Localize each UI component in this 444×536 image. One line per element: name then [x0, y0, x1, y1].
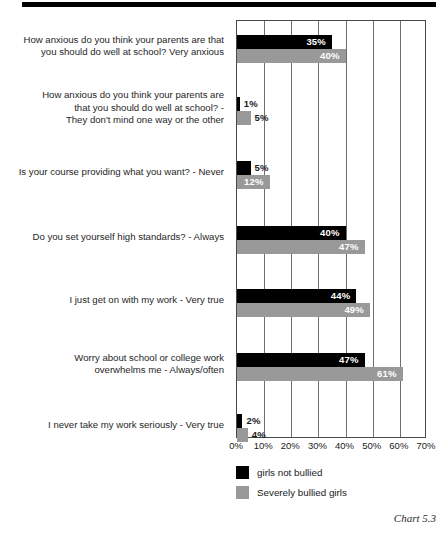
bar-value-label: 40% [320, 226, 340, 240]
legend-item: Severely bullied girls [236, 486, 436, 499]
bar-not-bullied [237, 97, 240, 111]
legend-label: girls not bullied [257, 467, 322, 478]
bar-group: 47%61% [237, 353, 425, 381]
bar-value-label: 1% [244, 97, 258, 111]
bar-group: 5%12% [237, 161, 425, 189]
x-tick-label: 50% [362, 440, 381, 451]
bar-chart: 35%40%1%5%5%12%40%47%44%49%47%61%2%4% [0, 18, 444, 436]
chart-caption: Chart 5.3 [394, 512, 436, 524]
x-tick-label: 70% [416, 440, 435, 451]
bar-value-label: 5% [255, 161, 269, 175]
bar-group: 44%49% [237, 289, 425, 317]
bar-group: 40%47% [237, 226, 425, 254]
bar-value-label: 44% [331, 289, 351, 303]
bar-severely-bullied [237, 111, 251, 125]
chart-legend: girls not bulliedSeverely bullied girls [236, 466, 436, 506]
legend-item: girls not bullied [236, 466, 436, 479]
bar-group: 2%4% [237, 414, 425, 442]
plot-area: 35%40%1%5%5%12%40%47%44%49%47%61%2%4% [236, 20, 426, 438]
legend-label: Severely bullied girls [257, 487, 347, 498]
bar-value-label: 47% [339, 353, 359, 367]
bar-value-label: 40% [320, 49, 340, 63]
bar-value-label: 5% [255, 111, 269, 125]
x-tick-label: 0% [229, 440, 243, 451]
bar-value-label: 61% [377, 367, 397, 381]
x-tick-label: 20% [281, 440, 300, 451]
bar-value-label: 49% [344, 303, 364, 317]
bar-value-label: 12% [244, 175, 264, 189]
x-tick-label: 60% [389, 440, 408, 451]
bar-value-label: 35% [306, 35, 326, 49]
x-tick-label: 40% [335, 440, 354, 451]
x-tick-label: 10% [254, 440, 273, 451]
top-divider-rule [22, 2, 436, 7]
bar-group: 1%5% [237, 97, 425, 125]
bar-value-label: 47% [339, 240, 359, 254]
bar-group: 35%40% [237, 35, 425, 63]
bar-not-bullied [237, 414, 242, 428]
legend-swatch-black [236, 466, 249, 479]
bar-value-label: 2% [246, 414, 260, 428]
x-tick-label: 30% [308, 440, 327, 451]
legend-swatch-gray [236, 486, 249, 499]
x-axis-tick-labels: 0%10%20%30%40%50%60%70% [236, 440, 426, 456]
bar-not-bullied [237, 161, 251, 175]
